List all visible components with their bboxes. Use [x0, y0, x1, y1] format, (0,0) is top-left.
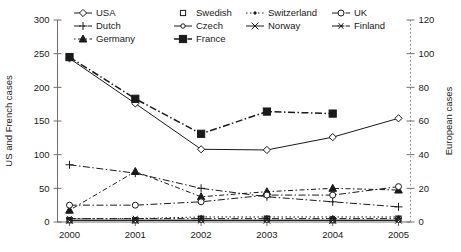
- series-line-france: [70, 57, 333, 134]
- marker-uk: [67, 202, 73, 208]
- marker-france: [263, 108, 270, 115]
- marker-uk: [396, 184, 402, 190]
- legend-marker-dutch: [79, 22, 87, 30]
- legend-label-norway: Norway: [268, 20, 300, 31]
- marker-uk: [264, 192, 270, 198]
- legend-item-dutch[interactable]: Dutch: [74, 20, 121, 31]
- marker-france: [329, 110, 336, 117]
- chart-legend: USASwedishSwitzerlandUKDutchCzechNorwayF…: [74, 7, 385, 44]
- marker-usa: [395, 115, 402, 122]
- left-axis: 050100150200250300 US and French cases: [3, 14, 62, 227]
- series-norway: [66, 217, 402, 224]
- legend-label-france: France: [196, 33, 226, 44]
- legend-item-germany[interactable]: Germany: [74, 33, 135, 44]
- legend-item-usa[interactable]: USA: [74, 7, 116, 18]
- series-line-germany: [70, 172, 399, 211]
- x-tick-label: 2003: [256, 229, 277, 240]
- legend-label-switzerland: Switzerland: [268, 7, 317, 18]
- legend-label-usa: USA: [96, 7, 116, 18]
- legend-label-swedish: Swedish: [196, 7, 232, 18]
- right-tick-label: 120: [419, 14, 435, 25]
- marker-usa: [329, 134, 336, 141]
- series-switzerland: [68, 216, 399, 220]
- marker-dutch: [66, 161, 74, 169]
- x-tick-label: 2000: [59, 229, 80, 240]
- legend-item-czech[interactable]: Czech: [174, 20, 223, 31]
- marker-france: [132, 95, 139, 102]
- marker-uk: [132, 202, 138, 208]
- right-tick-label: 60: [419, 115, 430, 126]
- series-france: [66, 53, 336, 137]
- x-tick-label: 2002: [191, 229, 212, 240]
- legend-marker-czech: [181, 24, 185, 28]
- marker-germany: [329, 184, 337, 191]
- legend-item-finland[interactable]: Finland: [332, 20, 385, 31]
- right-tick-label: 80: [419, 82, 430, 93]
- right-tick-label: 20: [419, 183, 430, 194]
- right-tick-label: 100: [419, 48, 435, 59]
- series-usa: [66, 55, 402, 154]
- legend-marker-swedish: [180, 10, 185, 15]
- left-tick-label: 250: [34, 48, 50, 59]
- right-tick-label: 40: [419, 149, 430, 160]
- legend-item-swedish[interactable]: Swedish: [180, 7, 232, 18]
- legend-item-norway[interactable]: Norway: [246, 20, 300, 31]
- left-tick-label: 150: [34, 115, 50, 126]
- legend-marker-finland: [338, 23, 345, 29]
- left-tick-label: 300: [34, 14, 50, 25]
- left-tick-label: 50: [39, 183, 50, 194]
- series-line-dutch: [70, 165, 399, 207]
- right-axis: 020406080100120 European cases: [407, 14, 455, 227]
- legend-label-uk: UK: [354, 7, 368, 18]
- legend-marker-switzerland: [254, 12, 256, 14]
- legend-label-dutch: Dutch: [96, 20, 121, 31]
- series-dutch: [66, 161, 403, 211]
- marker-dutch: [329, 198, 337, 206]
- marker-dutch: [197, 184, 205, 192]
- legend-item-switzerland[interactable]: Switzerland: [246, 7, 317, 18]
- marker-dutch: [395, 203, 403, 211]
- marker-usa: [198, 146, 205, 153]
- marker-germany: [132, 168, 140, 175]
- legend-item-uk[interactable]: UK: [332, 7, 368, 18]
- line-chart: 050100150200250300 US and French cases 0…: [0, 0, 461, 252]
- x-tick-label: 2001: [125, 229, 146, 240]
- marker-usa: [263, 146, 270, 153]
- right-tick-label: 0: [419, 216, 424, 227]
- series-line-uk: [70, 187, 399, 206]
- legend-label-czech: Czech: [196, 20, 223, 31]
- right-axis-title: European cases: [443, 86, 454, 155]
- left-tick-label: 0: [44, 216, 49, 227]
- left-tick-label: 200: [34, 82, 50, 93]
- legend-item-france[interactable]: France: [174, 33, 226, 44]
- series-germany: [66, 168, 403, 214]
- series-layer: [66, 53, 403, 223]
- series-uk: [67, 184, 402, 209]
- marker-france: [66, 53, 73, 60]
- x-tick-label: 2005: [388, 229, 409, 240]
- legend-marker-uk: [338, 10, 344, 16]
- left-tick-label: 100: [34, 149, 50, 160]
- legend-marker-usa: [79, 9, 86, 16]
- marker-uk: [198, 199, 204, 205]
- series-line-usa: [70, 58, 399, 150]
- legend-marker-france: [179, 35, 186, 42]
- x-axis: 200020012002200320042005: [58, 222, 411, 240]
- marker-france: [198, 130, 205, 137]
- x-tick-label: 2004: [322, 229, 343, 240]
- legend-label-germany: Germany: [96, 33, 135, 44]
- chart-container: 050100150200250300 US and French cases 0…: [0, 0, 461, 252]
- left-axis-title: US and French cases: [3, 75, 14, 167]
- marker-uk: [330, 192, 336, 198]
- legend-label-finland: Finland: [354, 20, 385, 31]
